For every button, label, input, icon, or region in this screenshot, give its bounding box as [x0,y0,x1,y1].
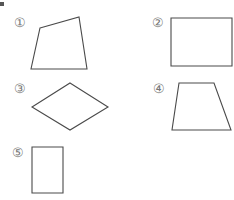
figure-3-label: ③ [14,81,26,96]
bullet-mark [0,2,4,6]
irregular-quadrilateral-shape [31,17,87,69]
figure-5: ⑤ [12,145,63,193]
figure-4-label: ④ [153,81,165,96]
figure-2: ② [152,15,232,66]
figure-1-label: ① [14,15,26,30]
shapes-diagram: ① ② ③ ④ ⑤ [0,0,234,200]
figure-2-label: ② [152,15,164,30]
figure-4: ④ [153,81,231,130]
rectangle-shape [171,18,232,66]
figure-3: ③ [14,81,108,130]
rhombus-shape [32,83,108,130]
trapezoid-shape [172,83,231,130]
tall-rectangle-shape [32,147,63,193]
figure-1: ① [14,15,87,69]
figure-5-label: ⑤ [12,145,24,160]
